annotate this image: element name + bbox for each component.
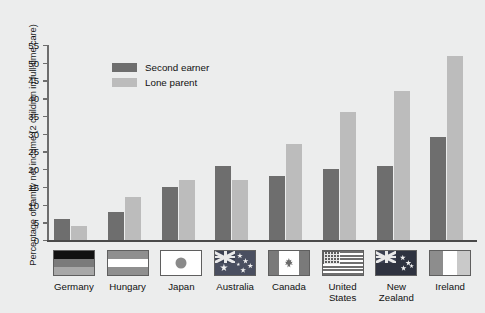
- bar: [323, 169, 339, 240]
- flag-ireland-icon: [429, 250, 471, 276]
- bar: [377, 166, 393, 240]
- y-tick-label: 35: [28, 110, 39, 121]
- x-axis-label: Australia: [208, 281, 262, 292]
- x-axis-label-line: States: [316, 292, 370, 303]
- flag-graphic: [214, 250, 256, 276]
- x-axis-label: Hungary: [101, 281, 155, 292]
- y-tick-label: 30: [28, 128, 39, 139]
- flag-hungary-icon: [107, 250, 149, 276]
- x-axis-label: Ireland: [423, 281, 477, 292]
- legend: Second earner Lone parent: [112, 60, 209, 90]
- y-tick-label: 55: [28, 40, 39, 51]
- bar: [340, 112, 356, 240]
- flag-japan-icon: [160, 250, 202, 276]
- bar-chart: Percentage of family net income (2 child…: [0, 0, 485, 313]
- flag-graphic: [322, 250, 364, 276]
- x-axis-label: Canada: [262, 281, 316, 292]
- flag-germany-icon: [53, 250, 95, 276]
- bar-group: [47, 45, 101, 240]
- legend-label: Lone parent: [145, 77, 197, 88]
- y-tick-label: 40: [28, 93, 39, 104]
- flag-graphic: [160, 250, 202, 276]
- y-tick-label: 25: [28, 146, 39, 157]
- legend-item-lone-parent: Lone parent: [112, 75, 209, 89]
- bar: [215, 166, 231, 240]
- flag-graphic: [375, 250, 417, 276]
- bar-group: [262, 45, 316, 240]
- bar: [232, 180, 248, 240]
- flag-united-states-icon: [322, 250, 364, 276]
- y-tick-label: 20: [28, 164, 39, 175]
- x-axis-label: NewZealand: [370, 281, 424, 303]
- y-tick-label: 45: [28, 75, 39, 86]
- x-axis-label-line: Japan: [155, 281, 209, 292]
- flag-graphic: [268, 250, 310, 276]
- bar: [54, 219, 70, 240]
- y-tick-label: 10: [28, 199, 39, 210]
- y-tick-mark: [43, 240, 48, 241]
- bar: [447, 56, 463, 240]
- x-axis-label-line: Ireland: [423, 281, 477, 292]
- bar: [125, 197, 141, 240]
- x-axis-label-line: Hungary: [101, 281, 155, 292]
- flag-graphic: [429, 250, 471, 276]
- legend-item-second-earner: Second earner: [112, 60, 209, 74]
- legend-label: Second earner: [145, 62, 209, 73]
- bar: [162, 187, 178, 240]
- bar-group: [370, 45, 424, 240]
- flag-graphic: [107, 250, 149, 276]
- x-axis-label-line: Canada: [262, 281, 316, 292]
- x-axis-label: Germany: [47, 281, 101, 292]
- bar-group: [316, 45, 370, 240]
- y-tick-label: 50: [28, 57, 39, 68]
- x-axis-label-line: Australia: [208, 281, 262, 292]
- x-axis-label-line: United: [316, 281, 370, 292]
- x-axis-label-line: Zealand: [370, 292, 424, 303]
- x-axis-label: Japan: [155, 281, 209, 292]
- bar: [108, 212, 124, 240]
- legend-swatch-icon: [112, 63, 137, 72]
- y-tick-label: 0: [34, 235, 39, 246]
- flag-canada-icon: [268, 250, 310, 276]
- x-axis-line: [47, 240, 477, 242]
- x-axis-label-line: Germany: [47, 281, 101, 292]
- flag-new-zealand-icon: [375, 250, 417, 276]
- bar: [394, 91, 410, 240]
- y-tick-label: 5: [34, 217, 39, 228]
- y-tick-label: 15: [28, 181, 39, 192]
- bar: [179, 180, 195, 240]
- bar-group: [208, 45, 262, 240]
- bar: [286, 144, 302, 240]
- country-flag-row: [47, 250, 477, 278]
- bar: [430, 137, 446, 240]
- flag-graphic: [53, 250, 95, 276]
- bar-group: [423, 45, 477, 240]
- flag-australia-icon: [214, 250, 256, 276]
- bar: [71, 226, 87, 240]
- bar: [269, 176, 285, 240]
- x-axis-label-line: New: [370, 281, 424, 292]
- legend-swatch-icon: [112, 78, 137, 87]
- x-axis-label: UnitedStates: [316, 281, 370, 303]
